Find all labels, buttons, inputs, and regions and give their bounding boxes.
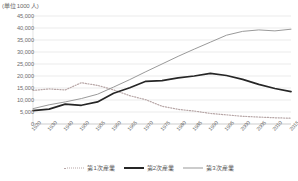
y-tick-label: 30,000	[0, 49, 34, 55]
y-tick-label: 40,000	[0, 25, 34, 31]
plot-area	[0, 0, 298, 181]
y-tick-label: 15,000	[0, 85, 34, 91]
y-tick-label: 45,000	[0, 13, 34, 19]
y-tick-label: 25,000	[0, 61, 34, 67]
series-line-2	[33, 73, 291, 110]
line-chart: (単位 1000 人) 45,00040,00035,00030,00025,0…	[0, 0, 298, 181]
axis-lines	[33, 16, 291, 124]
y-tick-label: 5,000	[0, 109, 34, 115]
series-line-3	[33, 29, 291, 108]
y-tick-label: 10,000	[0, 97, 34, 103]
legend-item-primary-industry[interactable]: 第1次産業	[64, 163, 114, 172]
legend-line-icon-tertiary	[183, 165, 203, 170]
y-tick-label: 20,000	[0, 73, 34, 79]
legend-label-primary: 第1次産業	[87, 163, 114, 172]
gridlines	[33, 16, 291, 124]
legend-label-secondary: 第2次産業	[147, 163, 174, 172]
legend-label-tertiary: 第3次産業	[206, 163, 233, 172]
legend-line-icon-secondary	[124, 165, 144, 170]
series-lines	[33, 29, 291, 118]
y-tick-label: 0	[0, 121, 34, 127]
chart-legend: 第1次産業 第2次産業 第3次産業	[0, 163, 298, 172]
legend-line-icon-primary	[64, 165, 84, 170]
legend-item-tertiary-industry[interactable]: 第3次産業	[183, 163, 233, 172]
legend-item-secondary-industry[interactable]: 第2次産業	[124, 163, 174, 172]
y-tick-label: 35,000	[0, 37, 34, 43]
